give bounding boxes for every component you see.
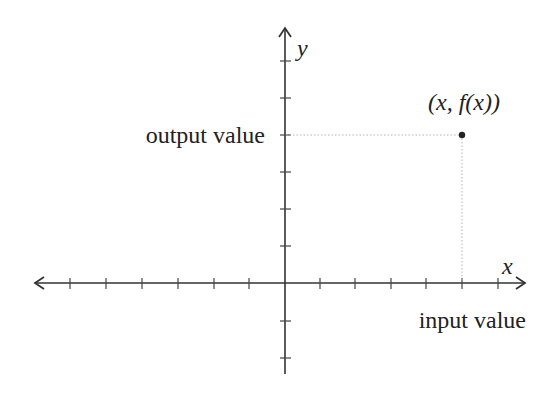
output-value-label: output value (146, 122, 265, 148)
input-value-label: input value (419, 307, 526, 333)
x-axis-label: x (501, 253, 513, 279)
function-point (459, 132, 465, 138)
x-axis (35, 277, 525, 289)
guide-lines (286, 135, 462, 282)
y-axis-label: y (295, 35, 308, 61)
point-label: (x, f(x)) (428, 89, 500, 115)
coordinate-plane: y x (x, f(x)) output value input value (0, 0, 559, 398)
y-axis (279, 28, 291, 374)
